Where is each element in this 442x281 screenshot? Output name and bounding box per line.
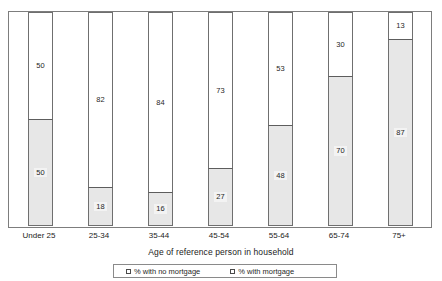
x-axis-tick-labels: Under 25 25-34 35-44 45-54 55-64 65-74 7… <box>8 231 432 243</box>
bar-segment-with-mortgage: 16 <box>148 192 173 226</box>
bar-stack: 82 18 <box>88 12 113 227</box>
bar-value-label: 84 <box>156 99 165 107</box>
bar-segment-no-mortgage: 13 <box>388 12 413 40</box>
bar-value-label: 13 <box>396 22 405 30</box>
legend-swatch-icon <box>230 269 235 274</box>
legend-label: % with no mortgage <box>134 267 200 276</box>
bar-segment-with-mortgage: 50 <box>28 119 53 227</box>
legend-swatch-icon <box>126 269 131 274</box>
bar-group-55-64: 53 48 <box>268 12 293 227</box>
x-axis-title: Age of reference person in household <box>0 247 442 257</box>
bar-value-label: 87 <box>394 128 407 138</box>
legend-item-no-mortgage: % with no mortgage <box>126 267 200 276</box>
bar-segment-with-mortgage: 87 <box>388 39 413 226</box>
bar-value-label: 82 <box>96 96 105 104</box>
bar-segment-no-mortgage: 53 <box>268 12 293 126</box>
chart-legend: % with no mortgage % with mortgage <box>113 264 337 278</box>
bar-segment-no-mortgage: 30 <box>328 12 353 77</box>
x-tick-75-plus: 75+ <box>364 231 434 241</box>
bar-segment-no-mortgage: 84 <box>148 12 173 193</box>
bar-value-label: 70 <box>334 146 347 156</box>
bar-value-label: 18 <box>94 202 107 212</box>
plot-area: 50 50 82 18 <box>9 12 431 227</box>
bar-value-label: 48 <box>274 171 287 181</box>
bar-value-label: 27 <box>214 192 227 202</box>
bar-value-label: 50 <box>34 168 47 178</box>
bar-value-label: 30 <box>336 41 345 49</box>
bar-segment-no-mortgage: 73 <box>208 12 233 169</box>
bar-segment-with-mortgage: 70 <box>328 76 353 227</box>
bar-segment-with-mortgage: 48 <box>268 125 293 226</box>
bar-value-label: 50 <box>36 62 45 70</box>
bar-stack: 13 87 <box>388 12 413 227</box>
bar-stack: 73 27 <box>208 12 233 227</box>
bar-value-label: 16 <box>154 204 167 214</box>
legend-label: % with mortgage <box>238 267 294 276</box>
bar-group-65-74: 30 70 <box>328 12 353 227</box>
stacked-bar-chart: 50 50 82 18 <box>0 0 442 281</box>
bar-segment-no-mortgage: 82 <box>88 12 113 188</box>
plot-frame: 50 50 82 18 <box>8 11 432 228</box>
bar-group-under-25: 50 50 <box>28 12 53 227</box>
bar-stack: 53 48 <box>268 12 293 227</box>
bar-segment-with-mortgage: 27 <box>208 168 233 226</box>
bar-value-label: 53 <box>276 65 285 73</box>
bar-stack: 30 70 <box>328 12 353 227</box>
bar-segment-no-mortgage: 50 <box>28 12 53 120</box>
bar-group-25-34: 82 18 <box>88 12 113 227</box>
legend-item-with-mortgage: % with mortgage <box>230 267 294 276</box>
bar-group-45-54: 73 27 <box>208 12 233 227</box>
bar-group-75-plus: 13 87 <box>388 12 413 227</box>
bar-stack: 50 50 <box>28 12 53 227</box>
bar-value-label: 73 <box>216 87 225 95</box>
bar-stack: 84 16 <box>148 12 173 227</box>
bar-group-35-44: 84 16 <box>148 12 173 227</box>
bar-segment-with-mortgage: 18 <box>88 187 113 226</box>
